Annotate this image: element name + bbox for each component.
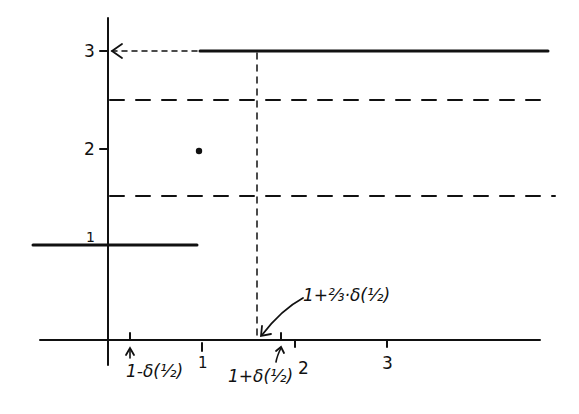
y-label-1: 1 xyxy=(86,230,95,244)
x-label-1: 1 xyxy=(198,356,208,371)
label-1-minus-delta: 1-δ(½) xyxy=(126,363,183,380)
y-label-2: 2 xyxy=(84,141,95,158)
annotation-arrow xyxy=(262,298,303,335)
x-label-3: 3 xyxy=(382,355,393,372)
x-label-2: 2 xyxy=(298,360,309,377)
step-function-diagram xyxy=(0,0,579,414)
y-label-3: 3 xyxy=(84,43,95,60)
label-1-plus-delta: 1+δ(½) xyxy=(228,368,293,385)
isolated-point-dot xyxy=(196,148,202,154)
label-1-plus-two-thirds-delta: 1+⅔·δ(½) xyxy=(303,287,390,304)
